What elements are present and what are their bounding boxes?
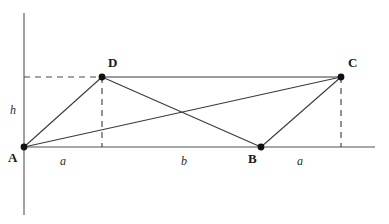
vertex-dot-A <box>21 144 28 151</box>
vertex-dot-C <box>338 74 345 81</box>
measure-label-segment-a2: a <box>297 155 303 167</box>
vertex-label-C: C <box>348 56 357 69</box>
measure-label-segment-b: b <box>181 155 187 167</box>
vertex-label-B: B <box>248 152 257 165</box>
segment-side-CB <box>261 77 341 147</box>
vertex-label-A: A <box>8 151 17 164</box>
segment-diagonal-DB <box>102 77 261 147</box>
diagram-canvas <box>0 0 389 224</box>
segment-side-AD <box>24 77 102 147</box>
vertex-dot-B <box>258 144 265 151</box>
vertex-dot-D <box>99 74 106 81</box>
geometry-figure: A B C D h a b a <box>0 0 389 224</box>
measure-label-segment-a1: a <box>60 155 66 167</box>
vertex-label-D: D <box>108 56 117 69</box>
measure-label-height-h: h <box>10 104 16 116</box>
